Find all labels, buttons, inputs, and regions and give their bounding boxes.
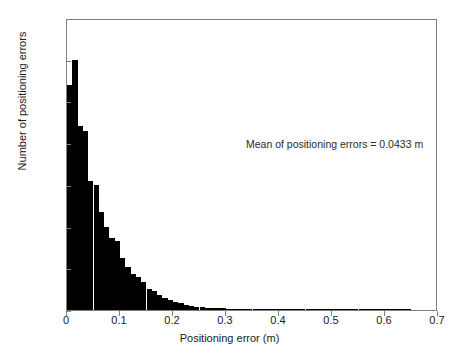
y-axis-label: Number of positioning errors [16,1,28,201]
x-tick-label: 0.7 [417,315,457,326]
y-tick-mark [66,61,71,62]
y-tick-mark [66,228,71,229]
histogram-bars [67,20,436,310]
x-tick-label: 0.6 [364,315,404,326]
y-tick-mark [66,144,71,145]
mean-annotation: Mean of positioning errors = 0.0433 m [246,138,423,150]
plot-area [66,19,437,311]
x-tick-label: 0.2 [152,315,192,326]
x-axis-label: Positioning error (m) [0,332,459,344]
x-tick-label: 0.4 [258,315,298,326]
histogram-bar [406,309,411,310]
x-tick-label: 0.5 [311,315,351,326]
x-tick-label: 0.1 [99,315,139,326]
y-tick-mark [66,269,71,270]
x-tick-label: 0.3 [205,315,245,326]
y-tick-mark [66,186,71,187]
y-tick-mark [66,102,71,103]
x-tick-label: 0 [46,315,86,326]
y-tick-mark [66,19,71,20]
histogram-figure: 0500100015002000250030003500 00.10.20.30… [0,0,459,357]
